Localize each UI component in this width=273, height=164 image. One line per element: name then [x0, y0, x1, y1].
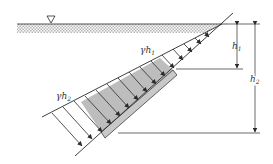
water-surface [17, 24, 228, 33]
free-surface-icon [47, 16, 55, 23]
label-gamma-h1: γh1 [140, 45, 155, 56]
label-h2: h2 [250, 74, 260, 85]
label-h1: h1 [232, 41, 242, 52]
pressure-diagram: γh1 γh2 h1 h2 [0, 0, 273, 164]
gate-pressure-region [81, 58, 174, 133]
label-gamma-h2: γh2 [56, 91, 71, 102]
inclined-wall [75, 13, 233, 156]
